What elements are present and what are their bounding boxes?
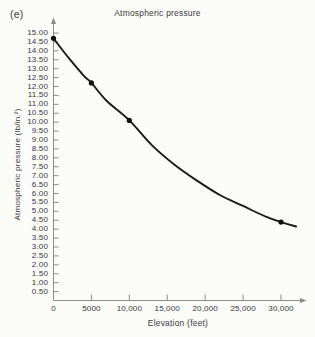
data-point-markers (51, 36, 284, 225)
tick-marks (54, 33, 282, 301)
atmospheric-pressure-figure: (e) Atmospheric pressure Atmospheric pre… (0, 0, 315, 337)
axes (51, 18, 307, 304)
pressure-curve (54, 38, 297, 226)
plot-area (0, 0, 315, 337)
